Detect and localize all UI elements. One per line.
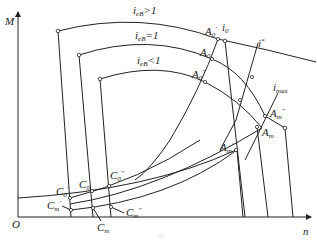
curve-ieb-lt1 [100,70,262,128]
label-imax: imax [273,82,288,95]
label-Cm-prime: Cm′ [47,200,61,213]
label-C0-prime: C0′ [56,186,68,199]
label-Am: Am [262,127,274,140]
y-axis-label: M [5,16,14,27]
label-ieb-eq1: ieB=1 [135,30,158,43]
label-A0: A0 [200,47,210,60]
figure-caption: 图 [30,232,290,238]
label-i0: i0 [222,22,229,35]
origin-label: O [12,219,20,230]
label-Am-prime: Am′ [220,142,233,155]
label-ieb-lt1: ieB<1 [137,55,160,68]
label-istar: i* [258,38,265,49]
label-Cm-dprime: Cm″ [126,207,141,220]
label-ieb-gt1: ieB>1 [133,5,156,18]
x-axis-label: n [303,226,309,237]
label-Am-dprime: Am″ [270,108,285,121]
label-C0: C0 [79,179,90,192]
curve-ieb-gt1 [58,22,316,62]
curve-c0 [71,150,237,210]
label-A0-dprime: A0″ [192,69,205,82]
label-C0-dprime: C0″ [110,170,124,183]
label-A0-prime: A0′ [205,26,217,39]
line-i0 [225,41,245,217]
